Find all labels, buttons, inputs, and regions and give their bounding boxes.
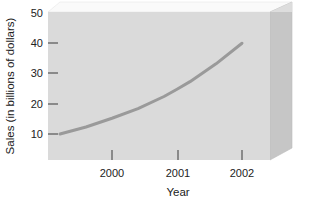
x-axis-title: Year — [166, 186, 189, 198]
y-tick-label-30: 30 — [31, 67, 43, 79]
plot-side-face — [270, 2, 292, 160]
plot-area-shading — [48, 12, 270, 160]
x-tick-label-2001: 2001 — [166, 167, 190, 179]
x-tick-label-2002: 2002 — [230, 167, 254, 179]
y-tick-label-10: 10 — [31, 128, 43, 140]
y-tick-label-40: 40 — [31, 37, 43, 49]
sales-line-chart: 50 40 30 20 10 2000 2001 2002 Year Sales… — [0, 0, 318, 203]
y-tick-label-50: 50 — [31, 7, 43, 19]
y-tick-label-20: 20 — [31, 98, 43, 110]
y-axis-title: Sales (in billions of dollars) — [4, 17, 16, 154]
chart-figure: 50 40 30 20 10 2000 2001 2002 Year Sales… — [0, 0, 318, 203]
x-tick-label-2000: 2000 — [100, 167, 124, 179]
plot-top-face — [48, 2, 292, 12]
